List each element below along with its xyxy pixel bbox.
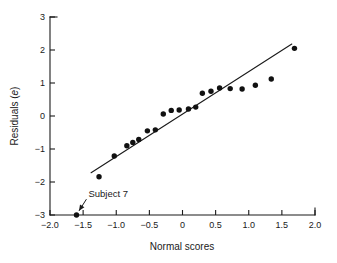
data-point <box>269 76 274 81</box>
y-tick-label: −3 <box>35 210 45 220</box>
y-axis-title-plain: Residuals ( <box>9 95 20 146</box>
fit-line-segment <box>91 44 292 173</box>
data-point <box>112 153 117 158</box>
data-point <box>186 106 191 111</box>
x-tick-label: 1.0 <box>242 220 255 230</box>
x-tick-label: 0 <box>180 220 185 230</box>
y-tick-label: 0 <box>40 111 45 121</box>
annotation-text: Subject 7 <box>88 188 128 199</box>
data-point <box>124 143 129 148</box>
data-point <box>145 128 150 133</box>
y-tick-label: −2 <box>35 177 45 187</box>
data-point <box>136 137 141 142</box>
data-point <box>169 108 174 113</box>
y-axis-ticks: −3−2−10123 <box>35 12 55 220</box>
scatter-chart-figure: −3−2−10123 −2.0−1.5−1.0−0.500.51.01.52.0… <box>0 0 337 263</box>
data-point <box>176 107 181 112</box>
y-tick-label: 1 <box>40 78 45 88</box>
x-tick-label: −0.5 <box>140 220 158 230</box>
x-tick-label: −2.0 <box>41 220 59 230</box>
data-point <box>228 86 233 91</box>
x-tick-label: 0.5 <box>209 220 222 230</box>
x-tick-label: 1.5 <box>276 220 289 230</box>
x-axis-ticks: −2.0−1.5−1.0−0.500.51.01.52.0 <box>41 210 321 230</box>
data-point <box>96 174 101 179</box>
data-point <box>74 212 79 217</box>
x-axis-title: Normal scores <box>150 241 214 252</box>
data-point <box>130 140 135 145</box>
y-tick-label: 2 <box>40 45 45 55</box>
subject-7-annotation: Subject 7 <box>79 188 128 211</box>
y-tick-label: −1 <box>35 144 45 154</box>
y-axis-title-close: ) <box>9 87 20 90</box>
x-tick-label: 2.0 <box>309 220 322 230</box>
data-point <box>193 104 198 109</box>
svg-text:Residuals (e): Residuals (e) <box>9 87 20 146</box>
data-point <box>208 89 213 94</box>
normal-probability-plot: −3−2−10123 −2.0−1.5−1.0−0.500.51.01.52.0… <box>0 0 337 263</box>
data-point <box>239 86 244 91</box>
x-tick-label: −1.5 <box>74 220 92 230</box>
axes-group <box>50 17 315 215</box>
x-tick-label: −1.0 <box>107 220 125 230</box>
data-point <box>292 46 297 51</box>
annotation-arrow-head <box>79 204 84 210</box>
data-point <box>253 83 258 88</box>
data-point <box>161 111 166 116</box>
reference-fit-line <box>91 44 292 173</box>
y-axis-title: Residuals (e) <box>9 87 20 146</box>
data-point <box>200 91 205 96</box>
data-point <box>217 85 222 90</box>
data-point <box>153 127 158 132</box>
y-tick-label: 3 <box>40 12 45 22</box>
